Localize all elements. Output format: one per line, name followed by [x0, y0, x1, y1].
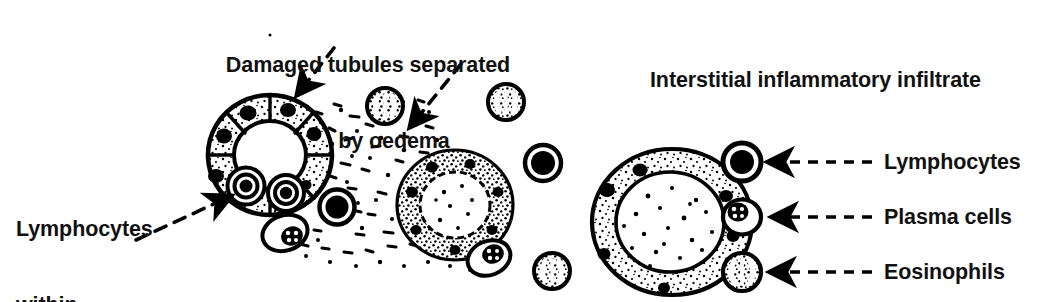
legend-label-eosinophils: Eosinophils	[884, 260, 1005, 285]
legend-label-lymphocytes: Lymphocytes	[884, 150, 1021, 175]
label-tubulitis: Lymphocytes within tubules ‘tubulitis’	[16, 166, 153, 302]
legend-label-plasma-cells: Plasma cells	[884, 205, 1012, 230]
legend-cell-lymphocyte	[723, 143, 761, 181]
label-interstitial-infiltrate: Interstitial inflammatory infiltrate	[650, 68, 981, 93]
label-tubulitis-line1: Lymphocytes	[16, 217, 153, 242]
lymphocyte	[320, 190, 355, 225]
label-damaged-tubules: Damaged tubules separated by oedema	[188, 2, 548, 180]
eosinophil	[534, 253, 570, 289]
intratubular-lymphocyte	[268, 175, 304, 211]
label-damaged-tubules-line1: Damaged tubules separated	[188, 53, 548, 78]
legend-cell-eosinophil	[723, 253, 761, 291]
legend-cell-plasma-cell	[723, 200, 761, 235]
label-damaged-tubules-line2: by oedema	[188, 129, 548, 154]
label-tubulitis-line2: within	[16, 293, 153, 302]
